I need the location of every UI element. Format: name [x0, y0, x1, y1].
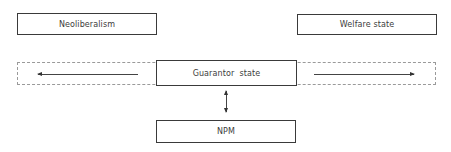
neoliberalism-box: Neoliberalism — [17, 13, 157, 35]
arrow-to-neoliberalism — [38, 74, 138, 75]
welfare-state-box: Welfare state — [297, 14, 437, 35]
neoliberalism-label: Neoliberalism — [59, 20, 115, 29]
npm-label: NPM — [217, 127, 235, 136]
arrow-to-welfare-state — [314, 74, 414, 75]
welfare-state-label: Welfare state — [340, 20, 394, 29]
double-arrow-guarantor-npm — [226, 91, 227, 112]
guarantor-state-box: Guarantor state — [156, 60, 297, 86]
guarantor-state-label: Guarantor state — [193, 69, 261, 78]
npm-box: NPM — [156, 120, 296, 143]
